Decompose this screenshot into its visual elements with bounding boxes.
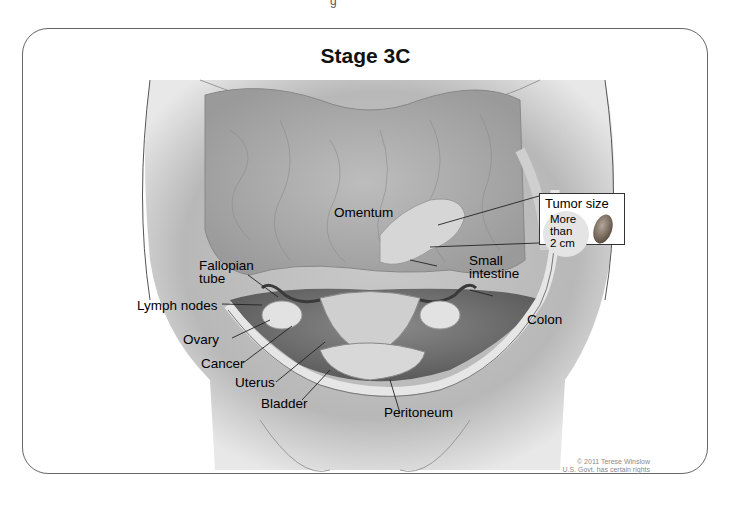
inset-text: More than 2 cm bbox=[550, 213, 576, 249]
copyright-line-1: © 2011 Terese Winslow bbox=[560, 458, 650, 466]
ovary-right bbox=[420, 301, 460, 329]
label-colon: Colon bbox=[527, 312, 562, 327]
label-fallopian-tube-2: tube bbox=[199, 271, 225, 286]
ovary-left bbox=[262, 301, 302, 329]
figure-title: Stage 3C bbox=[0, 44, 731, 68]
inset-title: Tumor size bbox=[545, 196, 609, 211]
omentum bbox=[205, 89, 525, 275]
anatomical-illustration bbox=[0, 0, 731, 505]
inset-line-1: More bbox=[550, 213, 576, 225]
label-ovary: Ovary bbox=[183, 332, 219, 347]
label-omentum: Omentum bbox=[334, 205, 393, 220]
copyright-line-2: U.S. Govt. has certain rights bbox=[560, 466, 650, 474]
label-cancer: Cancer bbox=[201, 356, 245, 371]
inset-line-3: 2 cm bbox=[550, 237, 576, 249]
inset-line-2: than bbox=[550, 225, 576, 237]
tumor-size-inset: Tumor size More than 2 cm bbox=[539, 193, 625, 245]
copyright: © 2011 Terese Winslow U.S. Govt. has cer… bbox=[560, 458, 650, 474]
label-bladder: Bladder bbox=[261, 396, 308, 411]
label-small-intestine-2: intestine bbox=[469, 266, 519, 281]
label-uterus: Uterus bbox=[235, 375, 275, 390]
label-lymph-nodes: Lymph nodes bbox=[137, 298, 218, 313]
label-peritoneum: Peritoneum bbox=[384, 405, 453, 420]
tumor-illustration-icon bbox=[588, 212, 618, 246]
